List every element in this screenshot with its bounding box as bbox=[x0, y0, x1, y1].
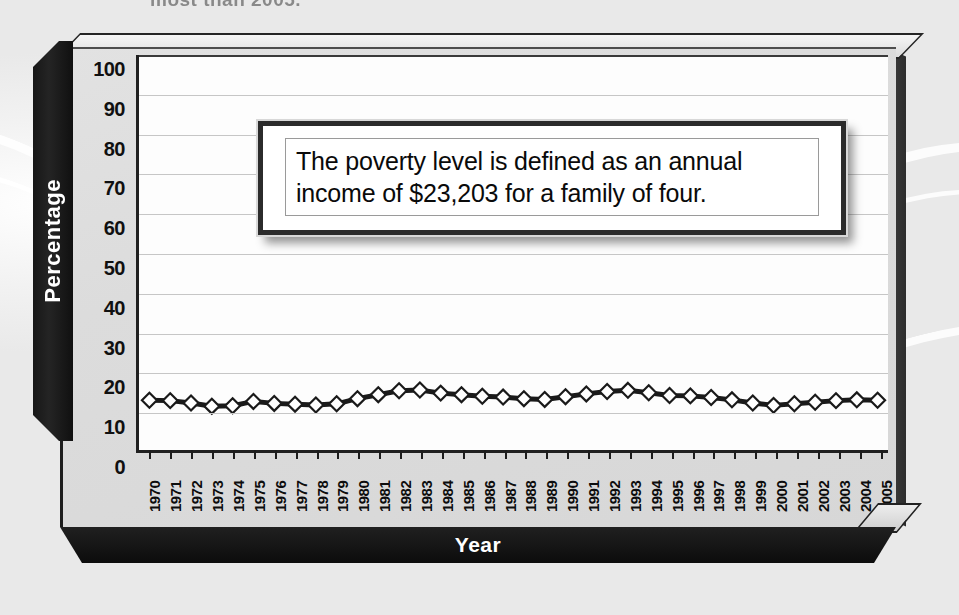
x-axis-tick bbox=[734, 450, 736, 459]
x-axis-tick bbox=[839, 450, 841, 459]
data-point-marker bbox=[184, 396, 199, 411]
data-point-marker bbox=[142, 393, 157, 408]
x-axis-tick-label: 1986 bbox=[481, 481, 498, 512]
x-axis-tick bbox=[170, 450, 172, 459]
callout-text: The poverty level is defined as an annua… bbox=[296, 145, 808, 209]
x-axis-tick-label: 1982 bbox=[397, 481, 414, 512]
data-point-marker bbox=[704, 390, 719, 405]
y-axis-tick-label: 100 bbox=[93, 58, 125, 81]
x-axis-tick-label: 1988 bbox=[522, 481, 539, 512]
x-axis-tick bbox=[149, 450, 151, 459]
x-axis-tick bbox=[275, 450, 277, 459]
x-axis-tick-label: 1978 bbox=[314, 481, 331, 512]
x-axis-tick-label: 1992 bbox=[606, 481, 623, 512]
x-axis-tick bbox=[567, 450, 569, 459]
x-axis-tick bbox=[755, 450, 757, 459]
gridline bbox=[139, 95, 888, 96]
data-point-marker bbox=[537, 392, 552, 407]
x-axis-tick bbox=[463, 450, 465, 459]
data-point-marker bbox=[433, 386, 448, 401]
data-point-marker bbox=[267, 396, 282, 411]
x-axis-tick-labels: 1970197119721973197419751976197719781979… bbox=[136, 465, 888, 527]
x-axis-tick bbox=[505, 450, 507, 459]
y-axis-tick-label: 40 bbox=[104, 296, 125, 319]
x-axis-tick bbox=[713, 450, 715, 459]
x-axis-tick bbox=[881, 450, 883, 459]
data-point-marker bbox=[745, 396, 760, 411]
data-point-marker bbox=[329, 396, 344, 411]
x-axis-tick-label: 1989 bbox=[543, 481, 560, 512]
x-axis-tick-label: 1984 bbox=[439, 481, 456, 512]
x-axis-tick bbox=[693, 450, 695, 459]
data-point-marker bbox=[558, 389, 573, 404]
x-axis-tick bbox=[233, 450, 235, 459]
data-point-marker bbox=[308, 398, 323, 413]
x-axis-tick bbox=[672, 450, 674, 459]
x-axis-tick bbox=[421, 450, 423, 459]
y-axis-tick-label: 10 bbox=[104, 416, 125, 439]
x-axis-tick-label: 1971 bbox=[167, 481, 184, 512]
x-axis-tick-label: 1987 bbox=[502, 481, 519, 512]
x-axis-tick-label: 1981 bbox=[376, 481, 393, 512]
x-axis-tick-label: 1985 bbox=[460, 481, 477, 512]
x-axis-tick-label: 1983 bbox=[418, 481, 435, 512]
gridline bbox=[139, 294, 888, 295]
data-point-marker bbox=[579, 386, 594, 401]
x-axis-tick-label: 1996 bbox=[690, 481, 707, 512]
x-axis-tick bbox=[191, 450, 193, 459]
data-point-marker bbox=[808, 395, 823, 410]
data-point-marker bbox=[766, 398, 781, 413]
data-point-marker bbox=[288, 397, 303, 412]
data-point-marker bbox=[371, 387, 386, 402]
x-axis-tick-label: 1995 bbox=[669, 481, 686, 512]
x-axis-tick bbox=[484, 450, 486, 459]
x-axis-title-band: Year bbox=[60, 527, 896, 563]
y-axis-tick-label: 60 bbox=[104, 217, 125, 240]
data-point-marker bbox=[225, 398, 240, 413]
x-axis-tick bbox=[337, 450, 339, 459]
data-point-marker bbox=[516, 391, 531, 406]
poverty-line-chart: Percentage 1009080706050403020100 197019… bbox=[33, 33, 913, 578]
data-series-line bbox=[139, 55, 888, 450]
x-axis-tick-label: 2000 bbox=[773, 481, 790, 512]
data-point-marker bbox=[870, 393, 885, 408]
x-axis-tick bbox=[546, 450, 548, 459]
data-point-marker bbox=[600, 384, 615, 399]
x-axis-tick-label: 1990 bbox=[564, 481, 581, 512]
data-point-marker bbox=[412, 383, 427, 398]
gridline bbox=[139, 413, 888, 414]
y-axis-tick-label: 20 bbox=[104, 376, 125, 399]
gridline bbox=[139, 55, 888, 57]
y-axis-tick-label: 80 bbox=[104, 137, 125, 160]
y-axis-tick-labels: 1009080706050403020100 bbox=[63, 47, 125, 459]
data-point-marker bbox=[163, 393, 178, 408]
data-point-marker bbox=[496, 390, 511, 405]
x-axis-tick bbox=[651, 450, 653, 459]
y-axis-tick-label: 90 bbox=[104, 97, 125, 120]
data-point-marker bbox=[641, 385, 656, 400]
x-axis-tick-label: 1974 bbox=[230, 481, 247, 512]
gridline bbox=[139, 373, 888, 374]
x-axis-tick bbox=[818, 450, 820, 459]
x-axis-tick-label: 1980 bbox=[355, 481, 372, 512]
x-axis-tick-label: 1979 bbox=[334, 481, 351, 512]
x-axis-tick-label: 1975 bbox=[251, 481, 268, 512]
data-point-marker bbox=[683, 388, 698, 403]
x-axis-tick-label: 1977 bbox=[293, 481, 310, 512]
x-axis-title: Year bbox=[455, 533, 501, 557]
x-axis-tick bbox=[254, 450, 256, 459]
data-point-marker bbox=[475, 389, 490, 404]
x-axis-tick-label: 1973 bbox=[209, 481, 226, 512]
x-axis-tick bbox=[609, 450, 611, 459]
x-axis-tick-label: 1991 bbox=[585, 481, 602, 512]
poverty-level-callout: The poverty level is defined as an annua… bbox=[258, 121, 846, 235]
gridline bbox=[139, 254, 888, 255]
x-axis-tick-label: 2001 bbox=[794, 481, 811, 512]
cropped-header-text: most than 2005. bbox=[150, 0, 301, 11]
x-axis-tick-label: 2003 bbox=[836, 481, 853, 512]
data-point-marker bbox=[787, 396, 802, 411]
data-point-marker bbox=[392, 383, 407, 398]
data-point-marker bbox=[849, 392, 864, 407]
x-axis-tick bbox=[358, 450, 360, 459]
x-axis-tick-label: 2004 bbox=[857, 481, 874, 512]
